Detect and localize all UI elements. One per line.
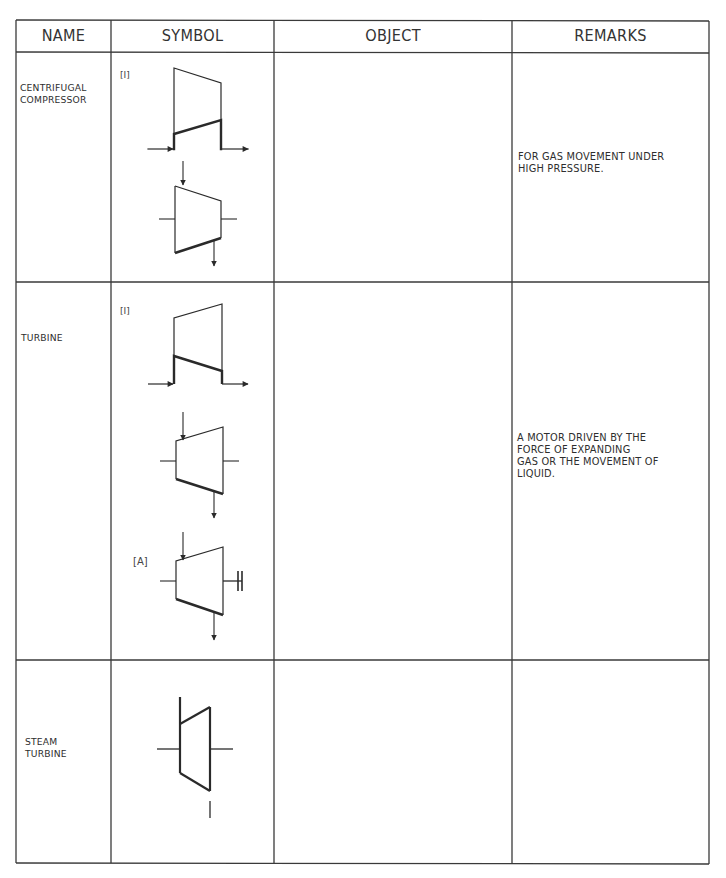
symbol-reference-sheet: NAME SYMBOL OBJECT REMARKS CENTRIFUGAL C…: [0, 0, 726, 878]
steam-turbine-symbol-icon: [0, 0, 726, 878]
